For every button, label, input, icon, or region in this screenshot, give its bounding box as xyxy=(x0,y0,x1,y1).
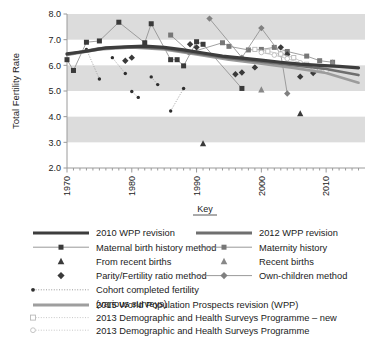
legend-item-left-0: 2010 WPP revision xyxy=(33,228,175,238)
x-tick-label: 2000 xyxy=(257,176,267,196)
data-point-square xyxy=(175,57,180,62)
chart-legend: 2010 WPP revisionMaternal birth history … xyxy=(31,228,348,335)
data-point-square xyxy=(168,57,173,62)
y-tick-label: 2.0 xyxy=(48,163,61,173)
data-point-dot xyxy=(156,83,159,86)
filled-square-icon xyxy=(59,245,64,250)
data-point-square xyxy=(116,20,121,25)
legend-label: 2013 Demographic and Health Surveys Prog… xyxy=(96,326,309,336)
data-point-square xyxy=(71,68,76,73)
mid-square-icon xyxy=(222,245,227,250)
mid-triangle-icon xyxy=(221,258,228,264)
y-axis-ticks: 2.03.04.05.06.07.08.0 xyxy=(48,9,67,173)
data-point-dot xyxy=(182,87,185,90)
legend-item-right-0: 2012 WPP revision xyxy=(196,228,338,238)
y-tick-label: 8.0 xyxy=(48,9,61,19)
data-point-square xyxy=(84,40,89,45)
legend-label: Maternity history xyxy=(259,243,328,253)
band xyxy=(67,117,365,143)
legend-item-right-3: Own-children method xyxy=(196,271,347,281)
small-dot-icon xyxy=(31,288,35,292)
legend-label: Recent births xyxy=(259,257,314,267)
key-heading: Key xyxy=(193,204,217,215)
data-point-dot xyxy=(124,72,127,75)
data-point-open-square xyxy=(279,52,283,56)
legend-item-left-3: Parity/Fertility ratio method xyxy=(57,271,206,281)
y-tick-label: 6.0 xyxy=(48,61,61,71)
data-point-square xyxy=(194,39,199,44)
legend-item-left-1: Maternal birth history method xyxy=(33,243,216,253)
plot-background xyxy=(67,14,365,168)
key-title-label: Key xyxy=(197,204,213,214)
fertility-scatter-chart: 2.03.04.05.06.07.08.0 197019801990200020… xyxy=(0,0,375,343)
open-circle-icon xyxy=(31,328,36,333)
legend-item-bottom-2: 2013 Demographic and Health Surveys Prog… xyxy=(31,326,310,336)
data-point-dot xyxy=(137,96,140,99)
legend-item-right-2: Recent births xyxy=(221,257,314,267)
data-point-square xyxy=(168,33,173,38)
data-point-square xyxy=(239,86,244,91)
legend-label: Cohort completed fertility xyxy=(96,285,199,295)
data-point-square xyxy=(149,21,154,26)
filled-diamond-icon xyxy=(57,272,64,279)
y-tick-label: 7.0 xyxy=(48,35,61,45)
data-point-open-square xyxy=(266,49,270,53)
legend-label: From recent births xyxy=(96,257,172,267)
y-axis-title: Total Fertility Rate xyxy=(10,53,21,129)
data-point-dot xyxy=(98,77,101,80)
horizontal-bands xyxy=(67,14,365,142)
data-point-open-circle xyxy=(285,56,290,61)
data-point-dot xyxy=(150,75,153,78)
x-axis-ticks: 19701980199020002010 xyxy=(62,168,358,196)
legend-label: 2015 World Population Prospects revision… xyxy=(96,300,298,310)
data-point-square xyxy=(97,38,102,43)
legend-item-bottom-1: 2013 Demographic and Health Surveys Prog… xyxy=(31,313,338,323)
filled-triangle-icon xyxy=(58,258,65,264)
data-point-open-circle xyxy=(259,50,264,55)
data-point-open-circle xyxy=(272,53,277,58)
legend-item-bottom-0: 2015 World Population Prospects revision… xyxy=(33,300,298,310)
chart-figure: 2.03.04.05.06.07.08.0 197019801990200020… xyxy=(0,0,375,343)
legend-label: 2012 WPP revision xyxy=(259,228,338,238)
legend-label: Own-children method xyxy=(259,271,347,281)
data-point-square xyxy=(304,54,309,59)
data-point-square xyxy=(181,63,186,68)
data-point-dot xyxy=(130,90,133,93)
legend-item-left-2: From recent births xyxy=(58,257,172,267)
data-point-open-square xyxy=(253,47,257,51)
open-square-icon xyxy=(31,315,36,320)
data-point-dot xyxy=(111,56,114,59)
legend-label: 2010 WPP revision xyxy=(96,228,175,238)
data-point-square xyxy=(317,58,322,63)
data-point-square xyxy=(65,57,70,62)
data-point-square xyxy=(201,42,206,47)
data-point-dot xyxy=(169,109,172,112)
y-tick-label: 5.0 xyxy=(48,86,61,96)
legend-label: 2013 Demographic and Health Surveys Prog… xyxy=(96,313,337,323)
y-tick-label: 4.0 xyxy=(48,112,61,122)
data-point-square xyxy=(220,40,225,45)
legend-item-left-4: Cohort completed fertility xyxy=(31,285,199,295)
x-tick-label: 1980 xyxy=(127,176,137,196)
y-tick-label: 3.0 xyxy=(48,138,61,148)
x-tick-label: 1970 xyxy=(62,176,72,196)
legend-label: Parity/Fertility ratio method xyxy=(96,271,207,281)
x-tick-label: 2010 xyxy=(321,176,331,196)
x-tick-label: 1990 xyxy=(192,176,202,196)
data-point-open-square xyxy=(292,56,296,60)
mid-diamond-icon xyxy=(220,272,227,279)
